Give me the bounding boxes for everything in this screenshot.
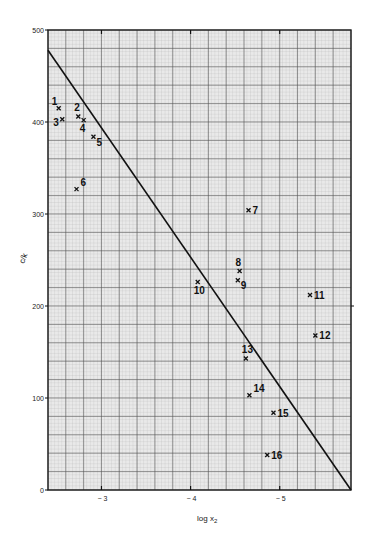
minor-grid: [48, 30, 351, 490]
point-label: 2: [74, 102, 80, 113]
point-label: 13: [242, 344, 254, 355]
point-label: 11: [314, 290, 325, 301]
y-tick-label: 0: [40, 487, 44, 494]
point-label: 8: [236, 257, 242, 268]
point-label: 4: [80, 123, 86, 134]
point-label: 10: [194, 285, 206, 296]
y-tick-label: 500: [32, 27, 44, 34]
point-label: 3: [53, 117, 59, 128]
point-label: 15: [277, 408, 289, 419]
y-tick-label: 300: [32, 211, 44, 218]
y-tick-label: 400: [32, 119, 44, 126]
point-label: 1: [52, 96, 58, 107]
x-tick-label: − 3: [97, 495, 107, 502]
point-label: 9: [241, 280, 247, 291]
x-tick-label: − 4: [187, 495, 197, 502]
point-label: 7: [253, 205, 259, 216]
x-tick-label: − 5: [276, 495, 286, 502]
y-tick-label: 200: [32, 303, 44, 310]
y-tick-label: 100: [32, 395, 44, 402]
x-axis-title: log x2: [197, 514, 218, 524]
chart: − 3− 4− 50100200300400500 12345678910111…: [0, 0, 369, 542]
point-label: 12: [319, 330, 331, 341]
x-axis-title-main: log x: [197, 514, 214, 523]
point-label: 5: [96, 137, 102, 148]
point-label: 14: [253, 383, 265, 394]
y-axis-title: c/k: [17, 251, 29, 265]
point-label: 6: [81, 177, 87, 188]
x-axis-title-subscript: 2: [214, 518, 218, 524]
point-label: 16: [271, 450, 283, 461]
